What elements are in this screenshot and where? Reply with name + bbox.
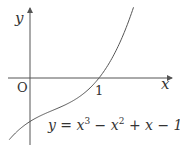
y-axis-label: y <box>15 11 23 26</box>
eq-part: − x <box>90 117 119 133</box>
x-axis-label: x <box>161 77 169 92</box>
x-tick-1-label: 1 <box>95 84 103 97</box>
eq-part: y = x <box>48 117 84 133</box>
equation-label: y = x3 − x2 + x − 1 <box>48 117 180 132</box>
eq-part: + x − 1 <box>124 117 180 133</box>
origin-label: O <box>17 81 28 94</box>
